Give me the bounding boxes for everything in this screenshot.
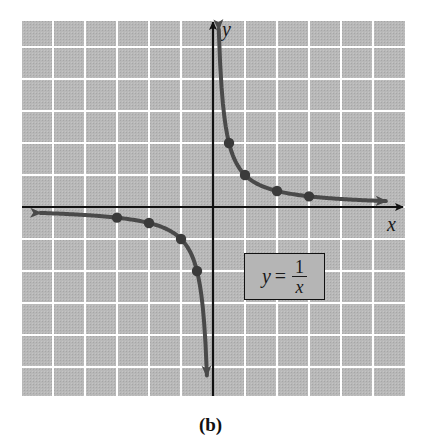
y-axis-label: y [220,18,231,41]
equation-lhs: y [262,265,271,288]
data-point [272,186,282,196]
data-point [144,218,154,228]
equation-fraction: 1 x [292,258,307,296]
x-axis-label: x [386,213,396,235]
data-point [176,234,186,244]
figure-caption: (b) [0,414,421,436]
equation-label-box: y = 1 x [244,253,325,300]
data-point [224,138,234,148]
equation-equals: = [275,265,286,288]
equation-denominator: x [296,277,304,296]
data-point [112,212,122,222]
data-point [304,191,314,201]
data-point [240,170,250,180]
data-point [192,266,202,276]
equation-numerator: 1 [292,258,307,277]
hyperbola-graph: y x [0,0,421,444]
